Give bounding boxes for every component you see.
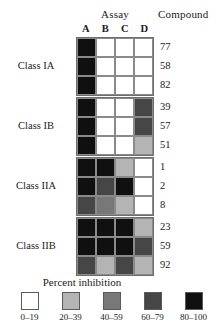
heatmap-cell-d xyxy=(134,218,153,237)
compound-number-column: 128 xyxy=(160,157,210,214)
heatmap-cell-a xyxy=(77,196,96,215)
heatmap-cell-a xyxy=(77,136,96,155)
heatmap-cell-b xyxy=(96,76,115,95)
heatmap-cell-c xyxy=(115,196,134,215)
legend-item: 0–19 xyxy=(13,292,46,322)
heatmap-cell-a xyxy=(77,98,96,117)
heatmap-cell-d xyxy=(134,98,153,117)
heatmap-cell-d xyxy=(134,177,153,196)
heatmap-cell-c xyxy=(115,98,134,117)
heatmap-cell-c xyxy=(115,136,134,155)
heatmap-grid xyxy=(76,217,154,276)
class-group-label: Class IIA xyxy=(0,157,72,214)
heatmap-cell-a xyxy=(77,237,96,256)
heatmap-cell-a xyxy=(77,158,96,177)
compound-number: 57 xyxy=(160,116,210,135)
heatmap-row xyxy=(77,158,153,177)
heatmap-cell-a xyxy=(77,177,96,196)
compound-column-title: Compound xyxy=(158,8,216,20)
legend-caption: 40–59 xyxy=(100,312,123,322)
heatmap-cell-a xyxy=(77,57,96,76)
assay-column-label-a: A xyxy=(76,23,96,34)
class-group-label: Class IB xyxy=(0,97,72,154)
inhibition-heatmap-figure: Assay Compound A B C D Class IA775882Cla… xyxy=(0,0,219,329)
heatmap-cell-a xyxy=(77,117,96,136)
compound-number: 92 xyxy=(160,255,210,274)
compound-number: 51 xyxy=(160,135,210,154)
heatmap-row xyxy=(77,256,153,275)
heatmap-cell-c xyxy=(115,38,134,57)
compound-number: 1 xyxy=(160,157,210,176)
compound-number: 2 xyxy=(160,176,210,195)
legend: Percent inhibition 0–1920–3940–5960–7980… xyxy=(0,276,219,322)
heatmap-cell-a xyxy=(77,256,96,275)
heatmap-cell-d xyxy=(134,38,153,57)
compound-number: 23 xyxy=(160,217,210,236)
heatmap-cell-c xyxy=(115,76,134,95)
heatmap-cell-b xyxy=(96,237,115,256)
compound-number-column: 235992 xyxy=(160,217,210,274)
compound-number: 82 xyxy=(160,75,210,94)
legend-caption: 20–39 xyxy=(59,312,82,322)
assay-column-label-d: D xyxy=(135,23,155,34)
heatmap-grid xyxy=(76,97,154,156)
heatmap-cell-c xyxy=(115,57,134,76)
heatmap-cell-b xyxy=(96,136,115,155)
heatmap-cell-b xyxy=(96,256,115,275)
legend-swatch xyxy=(144,292,162,310)
compound-number: 58 xyxy=(160,56,210,75)
legend-caption: 60–79 xyxy=(141,312,164,322)
heatmap-row xyxy=(77,117,153,136)
heatmap-cell-c xyxy=(115,117,134,136)
heatmap-cell-d xyxy=(134,76,153,95)
heatmap-cell-a xyxy=(77,218,96,237)
heatmap-cell-c xyxy=(115,256,134,275)
legend-item: 20–39 xyxy=(54,292,87,322)
heatmap-grid xyxy=(76,157,154,216)
legend-item: 40–59 xyxy=(95,292,128,322)
heatmap-row xyxy=(77,57,153,76)
legend-caption: 80–100 xyxy=(180,312,207,322)
heatmap-cell-d xyxy=(134,136,153,155)
heatmap-cell-d xyxy=(134,158,153,177)
heatmap-row xyxy=(77,98,153,117)
compound-number-column: 775882 xyxy=(160,37,210,94)
legend-swatch xyxy=(103,292,121,310)
heatmap-cell-d xyxy=(134,57,153,76)
heatmap-cell-b xyxy=(96,177,115,196)
heatmap-cell-d xyxy=(134,117,153,136)
compound-number: 39 xyxy=(160,97,210,116)
legend-swatch xyxy=(21,292,39,310)
heatmap-grid xyxy=(76,37,154,96)
heatmap-row xyxy=(77,218,153,237)
legend-swatch xyxy=(62,292,80,310)
legend-item: 60–79 xyxy=(136,292,169,322)
heatmap-cell-c xyxy=(115,158,134,177)
legend-item: 80–100 xyxy=(177,292,210,322)
heatmap-row xyxy=(77,136,153,155)
legend-items: 0–1920–3940–5960–7980–100 xyxy=(0,292,219,322)
heatmap-cell-b xyxy=(96,98,115,117)
heatmap-row xyxy=(77,38,153,57)
compound-number: 77 xyxy=(160,37,210,56)
assay-column-group-title: Assay xyxy=(76,8,154,20)
heatmap-cell-d xyxy=(134,256,153,275)
heatmap-cell-b xyxy=(96,218,115,237)
class-group-label: Class IIB xyxy=(0,217,72,274)
heatmap-cell-d xyxy=(134,196,153,215)
compound-number: 8 xyxy=(160,195,210,214)
assay-column-letters: A B C D xyxy=(76,23,154,34)
heatmap-cell-a xyxy=(77,76,96,95)
heatmap-cell-b xyxy=(96,196,115,215)
heatmap-cell-b xyxy=(96,57,115,76)
heatmap-row xyxy=(77,237,153,256)
heatmap-row xyxy=(77,177,153,196)
compound-number: 59 xyxy=(160,236,210,255)
class-group-label: Class IA xyxy=(0,37,72,94)
compound-number-column: 395751 xyxy=(160,97,210,154)
heatmap-cell-b xyxy=(96,117,115,136)
heatmap-cell-c xyxy=(115,218,134,237)
assay-column-label-c: C xyxy=(115,23,135,34)
heatmap-cell-c xyxy=(115,177,134,196)
legend-caption: 0–19 xyxy=(21,312,39,322)
